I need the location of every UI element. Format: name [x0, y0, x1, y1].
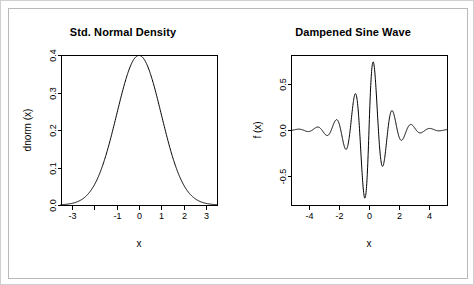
svg-text:4: 4	[427, 211, 432, 221]
svg-text:-1: -1	[113, 211, 121, 221]
svg-text:2: 2	[182, 211, 187, 221]
panel-dampened-sine-wave: Dampened Sine Wave -4-2024-0.50.00.5xf (…	[238, 8, 468, 279]
svg-text:x: x	[137, 238, 142, 249]
plot-device-frame: Std. Normal Density -3-101230.00.10.20.3…	[0, 0, 474, 285]
svg-text:0.0: 0.0	[278, 124, 288, 137]
std-normal-density-chart: -3-101230.00.10.20.30.4xdnorm (x)	[8, 8, 238, 279]
svg-text:-2: -2	[335, 211, 343, 221]
svg-text:x: x	[367, 238, 372, 249]
svg-text:0: 0	[137, 211, 142, 221]
svg-text:-3: -3	[68, 211, 76, 221]
svg-text:0: 0	[367, 211, 372, 221]
svg-text:0.1: 0.1	[48, 162, 58, 175]
svg-text:-4: -4	[305, 211, 313, 221]
svg-text:0.0: 0.0	[48, 199, 58, 212]
svg-text:1: 1	[159, 211, 164, 221]
svg-text:0.3: 0.3	[48, 87, 58, 100]
svg-text:0.2: 0.2	[48, 124, 58, 137]
svg-text:2: 2	[397, 211, 402, 221]
panel-std-normal-density: Std. Normal Density -3-101230.00.10.20.3…	[8, 8, 238, 279]
svg-text:-0.5: -0.5	[278, 169, 288, 185]
dampened-sine-wave-chart: -4-2024-0.50.00.5xf (x)	[238, 8, 468, 279]
svg-text:0.4: 0.4	[48, 49, 58, 62]
svg-text:f (x): f (x)	[252, 121, 263, 138]
svg-text:dnorm (x): dnorm (x)	[22, 109, 33, 152]
svg-text:3: 3	[204, 211, 209, 221]
svg-text:0.5: 0.5	[278, 78, 288, 91]
